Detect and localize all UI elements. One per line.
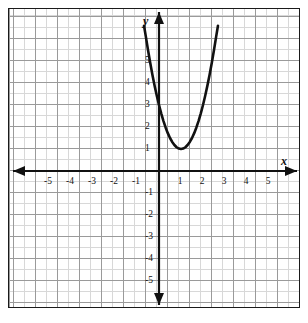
y-tick-label: -1 (145, 188, 161, 198)
x-tick-label: 3 (214, 177, 234, 187)
graph-paper-frame: x y -5-4-3-2-112345 54321-1-2-3-4-5 (8, 8, 300, 308)
y-tick-label: 2 (145, 122, 161, 132)
y-tick-label: 1 (145, 144, 161, 154)
y-axis-arrow-down-icon (154, 293, 164, 305)
y-tick-label: -3 (145, 232, 161, 242)
y-axis-arrow-up-icon (154, 12, 164, 24)
y-tick-label: -4 (145, 254, 161, 264)
y-tick-label: -5 (145, 276, 161, 286)
x-axis-arrow-left-icon (13, 166, 25, 176)
x-tick-label: -5 (38, 177, 58, 187)
graph-screenshot: x y -5-4-3-2-112345 54321-1-2-3-4-5 (0, 0, 308, 323)
x-tick-label: 4 (236, 177, 256, 187)
x-axis-label: x (281, 155, 287, 167)
x-tick-label: 1 (170, 177, 190, 187)
y-tick-label: -2 (145, 210, 161, 220)
y-tick-label: 4 (145, 78, 161, 88)
x-tick-label: 2 (192, 177, 212, 187)
x-tick-label: 5 (258, 177, 278, 187)
x-axis (13, 166, 297, 176)
x-tick-label: -3 (82, 177, 102, 187)
y-axis-label: y (143, 15, 148, 27)
y-tick-label: 5 (145, 56, 161, 66)
x-tick-label: -2 (104, 177, 124, 187)
x-tick-label: -1 (126, 177, 146, 187)
x-tick-label: -4 (60, 177, 80, 187)
y-tick-label: 3 (145, 100, 161, 110)
